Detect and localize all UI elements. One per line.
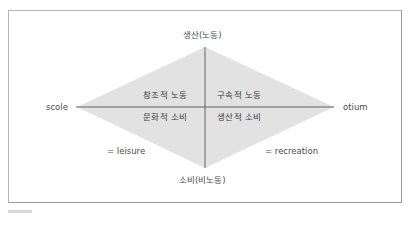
quadrant-top-right: 구속적 노동 <box>217 91 262 100</box>
quadrant-top-left: 창조적 노동 <box>143 91 188 100</box>
quadrant-bottom-left: 문화적 소비 <box>143 113 188 122</box>
quadrant-bottom-right: 생산적 소비 <box>217 113 262 122</box>
annotation-leisure: = leisure <box>107 147 145 156</box>
axis-label-left: scole <box>46 103 68 112</box>
axis-label-right: otium <box>343 103 368 112</box>
axis-label-bottom: 소비(비노동) <box>179 176 226 185</box>
annotation-recreation: = recreation <box>265 147 318 156</box>
caption-marker <box>8 210 32 213</box>
axis-label-top: 생산(노동) <box>183 31 222 40</box>
